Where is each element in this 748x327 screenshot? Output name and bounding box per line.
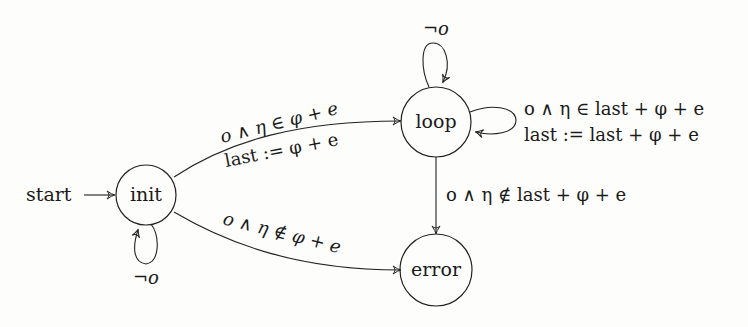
transition-loop-self-top-label: ¬o	[423, 18, 449, 39]
state-diagram: start init ¬o o ∧ η ∈ φ + e last := φ + …	[0, 0, 748, 327]
state-loop: loop	[401, 87, 471, 157]
transition-loop-error-label: o ∧ η ∉ last + φ + e	[446, 184, 626, 205]
start-indicator: start	[26, 183, 114, 205]
state-init: init	[116, 165, 176, 225]
state-error-label: error	[411, 258, 462, 280]
start-label: start	[26, 183, 72, 205]
state-loop-label: loop	[415, 110, 456, 132]
transition-init-loop: o ∧ η ∈ φ + e last := φ + e	[174, 97, 400, 177]
transition-loop-self-top: ¬o	[423, 18, 449, 87]
transition-loop-self-right: o ∧ η ∈ last + φ + e last := last + φ + …	[470, 98, 704, 145]
state-init-label: init	[130, 183, 162, 205]
transition-loop-self-right-action: last := last + φ + e	[524, 124, 699, 145]
transition-init-self-label: ¬o	[133, 267, 159, 288]
transition-init-self: ¬o	[133, 224, 159, 288]
transition-init-error: o ∧ η ∉ φ + e	[174, 208, 400, 270]
transition-loop-self-right-guard: o ∧ η ∈ last + φ + e	[524, 98, 704, 119]
transition-loop-error: o ∧ η ∉ last + φ + e	[436, 157, 626, 233]
transition-init-error-label: o ∧ η ∉ φ + e	[221, 208, 343, 258]
state-error: error	[400, 234, 472, 306]
